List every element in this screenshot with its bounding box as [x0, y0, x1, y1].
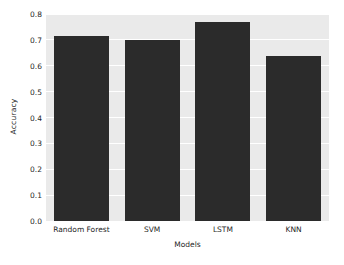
bar[interactable]: [54, 36, 109, 221]
y-axis-tick-label: 0.0: [30, 217, 42, 226]
bar[interactable]: [125, 40, 180, 221]
y-axis-tick-label: 0.3: [30, 139, 42, 148]
bar-series: [46, 14, 329, 221]
bar-slot: [117, 14, 188, 221]
x-axis-tick-labels: Random ForestSVMLSTMKNN: [46, 223, 329, 237]
x-axis-tick-label: SVM: [117, 223, 188, 237]
y-axis-tick-label: 0.4: [30, 113, 42, 122]
y-axis-tick-label: 0.5: [30, 87, 42, 96]
plot-area: [46, 14, 329, 221]
y-axis-tick-label: 0.6: [30, 61, 42, 70]
bar-slot: [188, 14, 259, 221]
y-axis-tick-labels: 0.00.10.20.30.40.50.60.70.8: [20, 14, 44, 221]
bar-chart-figure: Accuracy 0.00.10.20.30.40.50.60.70.8 Ran…: [0, 0, 344, 265]
bar[interactable]: [266, 56, 321, 221]
bar[interactable]: [195, 22, 250, 221]
x-axis-tick-label: KNN: [258, 223, 329, 237]
y-axis-tick-label: 0.2: [30, 165, 42, 174]
x-axis-tick-label: Random Forest: [46, 223, 117, 237]
bar-slot: [258, 14, 329, 221]
y-axis-title-text: Accuracy: [10, 98, 19, 134]
x-axis-tick-label: LSTM: [188, 223, 259, 237]
y-axis-tick-label: 0.8: [30, 10, 42, 19]
y-axis-tick-label: 0.1: [30, 191, 42, 200]
x-axis-title: Models: [46, 240, 329, 249]
y-axis-tick-label: 0.7: [30, 35, 42, 44]
bar-slot: [46, 14, 117, 221]
